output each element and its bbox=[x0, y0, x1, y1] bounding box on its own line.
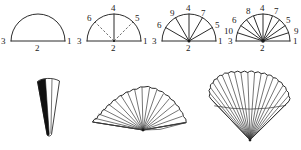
diagram-4-label-arc-top: 4 bbox=[260, 4, 265, 13]
diagram-4-label-arc-left: 6 bbox=[232, 16, 237, 25]
diagram-2-label-arc-upper-left: 6 bbox=[87, 14, 92, 23]
diagram-4-label-arc-upper-right: 7 bbox=[274, 7, 279, 16]
diagram-1-label-right: 1 bbox=[67, 37, 72, 46]
fully-open-fan-pivot bbox=[249, 139, 252, 142]
diagram-3-label-arc-upper-left: 9 bbox=[170, 9, 175, 18]
radius-1 bbox=[237, 33, 263, 41]
radius-9 bbox=[263, 33, 289, 41]
diagram-4-label-arc-far-left: 10 bbox=[224, 27, 233, 36]
diagram-4-label-right: 1 bbox=[293, 37, 298, 46]
diagram-3-label-right: 1 bbox=[218, 37, 223, 46]
diagram-2-label-arc-upper-right: 5 bbox=[135, 14, 140, 23]
half-open-fan-leaf bbox=[93, 86, 187, 130]
half-open-fan-pivot bbox=[142, 129, 145, 132]
diagram-2-label-arc-top: 4 bbox=[111, 4, 116, 13]
diagram-2-label-bottom: 2 bbox=[111, 44, 116, 53]
diagram-semicircle-three-divisions: 3 2 1 6 4 5 bbox=[76, 4, 152, 52]
diagram-4-label-bottom: 2 bbox=[260, 44, 265, 53]
diagram-semicircle-plain: 3 2 1 bbox=[0, 4, 76, 52]
radius-dashed-right bbox=[114, 22, 133, 41]
diagram-2-label-right: 1 bbox=[143, 37, 148, 46]
diagram-2-label-left: 3 bbox=[77, 37, 82, 46]
diagram-4-label-left: 3 bbox=[228, 37, 233, 46]
diagram-4-label-arc-far-right: 9 bbox=[294, 27, 299, 36]
illustration-fully-open-fan bbox=[202, 64, 298, 146]
diagram-3-label-arc-left: 6 bbox=[157, 21, 162, 30]
diagram-3-label-arc-top: 4 bbox=[186, 4, 191, 13]
diagram-semicircle-five-divisions: 3 2 1 6 9 4 7 5 bbox=[151, 4, 227, 52]
diagram-1-label-left: 3 bbox=[1, 37, 6, 46]
illustration-half-open-fan bbox=[88, 78, 196, 138]
radius-7 bbox=[263, 20, 279, 41]
radius-3 bbox=[247, 20, 263, 41]
diagram-3-label-arc-upper-right: 7 bbox=[201, 9, 206, 18]
diagram-4-label-arc-right: 5 bbox=[286, 16, 291, 25]
radius-dashed-left bbox=[95, 22, 114, 41]
semicircle-arc bbox=[11, 14, 65, 41]
fan-geometry-figure: 3 2 1 3 2 1 6 4 5 3 2 bbox=[0, 0, 301, 150]
diagram-4-label-arc-upper-left: 8 bbox=[246, 7, 251, 16]
diagram-1-label-bottom: 2 bbox=[35, 44, 40, 53]
diagram-semicircle-nine-divisions: 3 2 1 10 6 8 4 7 5 9 bbox=[225, 4, 301, 52]
diagram-3-label-arc-right: 5 bbox=[215, 21, 220, 30]
diagram-3-label-left: 3 bbox=[152, 37, 157, 46]
pivot-hub bbox=[113, 40, 115, 42]
illustration-closed-fan bbox=[30, 72, 80, 144]
diagram-3-label-bottom: 2 bbox=[186, 44, 191, 53]
